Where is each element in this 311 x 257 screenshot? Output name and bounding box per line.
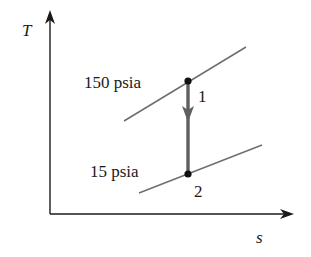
state-point-2	[184, 170, 191, 177]
state-label-1: 1	[198, 87, 207, 106]
x-axis-label: s	[256, 228, 263, 247]
isobar-label-150: 150 psia	[84, 73, 142, 92]
ts-diagram: T s 150 psia 15 psia 1 2	[0, 0, 311, 257]
state-point-1	[184, 77, 191, 84]
y-axis-label: T	[22, 21, 33, 40]
isobar-label-15: 15 psia	[90, 162, 139, 181]
state-label-2: 2	[194, 182, 203, 201]
